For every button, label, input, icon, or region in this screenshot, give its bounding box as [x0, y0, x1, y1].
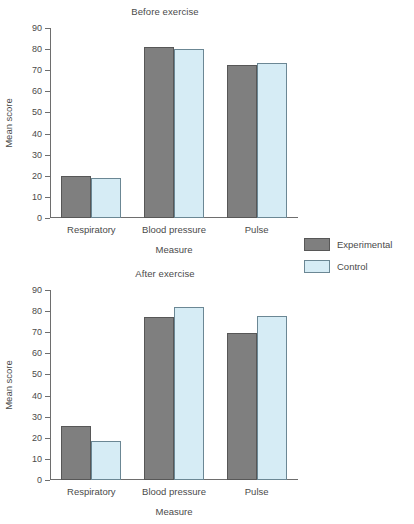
chart-panel-before-exercise: Before exercise Mean score Measure 01020…: [0, 4, 330, 254]
y-tick-label: 50: [32, 107, 42, 117]
y-tick-label: 70: [32, 65, 42, 75]
legend-item-control: Control: [304, 260, 392, 273]
y-tick-label: 0: [37, 213, 42, 223]
y-axis-title-after: Mean score: [3, 360, 14, 410]
y-tick-mark: [45, 70, 50, 71]
y-tick-mark: [45, 480, 50, 481]
category-label-pulse: Pulse: [245, 486, 269, 497]
category-label-respiratory: Respiratory: [67, 486, 116, 497]
x-axis-title-after: Measure: [50, 506, 298, 517]
y-tick-mark: [45, 134, 50, 135]
bar-experimental-respiratory: [61, 176, 91, 218]
legend-label-experimental: Experimental: [337, 239, 392, 250]
bar-experimental-respiratory: [61, 426, 91, 480]
y-tick-label: 10: [32, 454, 42, 464]
y-tick-mark: [45, 374, 50, 375]
legend-swatch-control-icon: [304, 260, 330, 273]
y-tick-label: 50: [32, 369, 42, 379]
y-tick-mark: [45, 91, 50, 92]
y-tick-label: 40: [32, 129, 42, 139]
bar-control-blood-pressure: [174, 49, 204, 218]
plot-area-after: Mean score Measure 0102030405060708090 R…: [50, 290, 298, 480]
y-tick-label: 30: [32, 150, 42, 160]
y-tick-label: 30: [32, 412, 42, 422]
y-tick-mark: [45, 112, 50, 113]
legend-label-control: Control: [337, 261, 368, 272]
y-tick-mark: [45, 353, 50, 354]
bar-control-respiratory: [91, 178, 121, 218]
y-tick-mark: [45, 396, 50, 397]
legend-swatch-experimental-icon: [304, 238, 330, 251]
y-tick-mark: [45, 49, 50, 50]
bar-control-pulse: [257, 316, 287, 480]
plot-area-before: Mean score Measure 0102030405060708090 R…: [50, 28, 298, 218]
bar-experimental-blood-pressure: [144, 47, 174, 218]
y-tick-mark: [45, 197, 50, 198]
y-tick-mark: [45, 332, 50, 333]
y-tick-mark: [45, 290, 50, 291]
chart-panel-after-exercise: After exercise Mean score Measure 010203…: [0, 266, 330, 516]
y-tick-mark: [45, 218, 50, 219]
y-tick-label: 80: [32, 44, 42, 54]
y-tick-label: 80: [32, 306, 42, 316]
y-tick-label: 60: [32, 348, 42, 358]
bar-experimental-pulse: [227, 65, 257, 218]
y-tick-mark: [45, 28, 50, 29]
y-tick-label: 90: [32, 285, 42, 295]
chart-legend: Experimental Control: [304, 238, 392, 282]
category-label-blood-pressure: Blood pressure: [142, 486, 206, 497]
legend-item-experimental: Experimental: [304, 238, 392, 251]
y-tick-label: 40: [32, 391, 42, 401]
chart-title-before: Before exercise: [0, 6, 330, 17]
bar-control-pulse: [257, 63, 287, 218]
y-axis-line-after: [50, 290, 51, 480]
y-tick-mark: [45, 311, 50, 312]
bar-experimental-pulse: [227, 333, 257, 480]
y-axis-title-before: Mean score: [3, 98, 14, 148]
y-tick-label: 0: [37, 475, 42, 485]
y-tick-mark: [45, 155, 50, 156]
y-tick-label: 20: [32, 171, 42, 181]
y-tick-mark: [45, 176, 50, 177]
x-axis-title-before: Measure: [50, 244, 298, 255]
bar-experimental-blood-pressure: [144, 317, 174, 480]
y-tick-label: 90: [32, 23, 42, 33]
category-label-respiratory: Respiratory: [67, 224, 116, 235]
bar-control-respiratory: [91, 441, 121, 480]
y-axis-line-before: [50, 28, 51, 218]
y-tick-label: 60: [32, 86, 42, 96]
chart-title-after: After exercise: [0, 268, 330, 279]
y-tick-label: 70: [32, 327, 42, 337]
bar-control-blood-pressure: [174, 307, 204, 480]
y-tick-mark: [45, 417, 50, 418]
y-tick-label: 20: [32, 433, 42, 443]
category-label-pulse: Pulse: [245, 224, 269, 235]
y-tick-mark: [45, 459, 50, 460]
category-label-blood-pressure: Blood pressure: [142, 224, 206, 235]
grouped-bar-chart-figure: Before exercise Mean score Measure 01020…: [0, 0, 414, 524]
y-tick-label: 10: [32, 192, 42, 202]
y-tick-mark: [45, 438, 50, 439]
